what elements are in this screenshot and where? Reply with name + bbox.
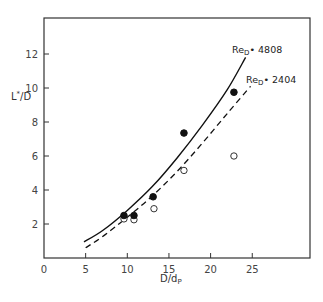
data-point-filled bbox=[181, 130, 188, 137]
x-axis-label: D/dP bbox=[160, 273, 182, 286]
data-point-open bbox=[151, 206, 157, 212]
x-tick-label: 0 bbox=[41, 264, 47, 275]
data-point-filled bbox=[131, 212, 138, 219]
data-point-filled bbox=[231, 89, 238, 96]
fitted-curves bbox=[84, 57, 251, 247]
data-point-open bbox=[231, 153, 237, 159]
y-tick-label: 4 bbox=[32, 185, 38, 196]
chart: 0510152025 24681012 D/dP L*/D ReD• 4808 … bbox=[0, 0, 323, 302]
x-tick-label: 10 bbox=[121, 264, 134, 275]
curve-re-4808-solid bbox=[84, 57, 246, 241]
data-point-filled bbox=[150, 194, 157, 201]
data-point-filled bbox=[121, 212, 128, 219]
x-axis-ticks: 0510152025 bbox=[41, 253, 259, 275]
y-tick-label: 6 bbox=[32, 151, 38, 162]
data-point-open bbox=[181, 167, 187, 173]
y-axis-ticks: 24681012 bbox=[25, 49, 49, 230]
y-tick-label: 8 bbox=[32, 117, 38, 128]
y-axis-label: L*/D bbox=[11, 90, 31, 102]
curve-label-re-4808: ReD• 4808 bbox=[232, 44, 282, 57]
x-tick-label: 25 bbox=[246, 264, 259, 275]
curve-label-re-2404: ReD• 2404 bbox=[246, 74, 296, 87]
x-tick-label: 5 bbox=[82, 264, 88, 275]
curve-re-2404-dashed bbox=[86, 86, 251, 248]
y-tick-label: 2 bbox=[32, 219, 38, 230]
x-tick-label: 20 bbox=[204, 264, 217, 275]
y-tick-label: 12 bbox=[25, 49, 38, 60]
